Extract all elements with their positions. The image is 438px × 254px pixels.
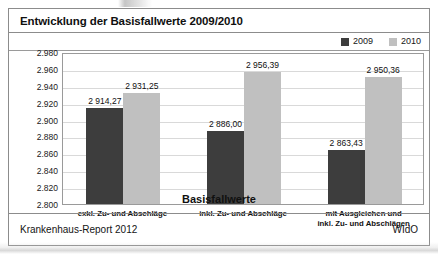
legend-label-2010: 2010	[401, 37, 421, 46]
figure-frame: Entwicklung der Basisfallwerte 2009/2010…	[8, 8, 430, 246]
bar-2010-group-2[interactable]	[244, 72, 281, 204]
publisher-label: WIdO	[392, 224, 418, 235]
y-axis-tick-label: 2.920	[37, 99, 58, 109]
legend-item-2009[interactable]: 2009	[341, 37, 373, 46]
page-title: Entwicklung der Basisfallwerte 2009/2010	[9, 15, 243, 27]
scan-artifact-top	[118, 0, 152, 7]
legend-swatch-icon-2009	[341, 38, 349, 46]
chart-figure: Entwicklung der Basisfallwerte 2009/2010…	[0, 0, 438, 254]
y-axis-tick-label: 2.980	[37, 48, 58, 58]
legend-label-2009: 2009	[353, 37, 373, 46]
y-axis-tick-label: 2.940	[37, 82, 58, 92]
source-label: Krankenhaus-Report 2012	[20, 224, 137, 235]
y-axis: 2.9802.9602.9402.9202.9002.8802.8602.840…	[9, 51, 62, 209]
plot-wrapper: 2.9802.9602.9402.9202.9002.8802.8602.840…	[9, 51, 429, 209]
y-axis-tick-label: 2.960	[37, 65, 58, 75]
bar-2010-group-3[interactable]	[365, 77, 402, 204]
bar-value-label: 2 863,43	[330, 138, 363, 148]
bar-value-label: 2 956,39	[246, 60, 279, 70]
bar-2010-group-1[interactable]	[123, 93, 160, 204]
bar-value-label: 2 931,25	[125, 81, 158, 91]
x-axis-title: Basisfallwerte	[9, 193, 429, 205]
y-axis-tick-label: 2.880	[37, 132, 58, 142]
y-axis-tick-label: 2.840	[37, 166, 58, 176]
chart-title-band: Entwicklung der Basisfallwerte 2009/2010	[9, 9, 429, 33]
y-axis-tick-label: 2.860	[37, 149, 58, 159]
y-axis-tick-label: 2.900	[37, 116, 58, 126]
bar-2009-group-1[interactable]	[86, 108, 123, 204]
y-axis-tick-label: 2.820	[37, 183, 58, 193]
legend-swatch-icon-2010	[389, 38, 397, 46]
chart-legend: 20092010	[341, 34, 426, 49]
bar-value-label: 2 950,36	[367, 65, 400, 75]
figure-footer: Krankenhaus-Report 2012 WIdO	[9, 214, 429, 245]
plot-area: 2 914,272 931,252 886,002 956,392 863,43…	[62, 53, 424, 205]
legend-item-2010[interactable]: 2010	[389, 37, 421, 46]
bar-value-label: 2 914,27	[88, 96, 121, 106]
bar-value-label: 2 886,00	[209, 119, 242, 129]
